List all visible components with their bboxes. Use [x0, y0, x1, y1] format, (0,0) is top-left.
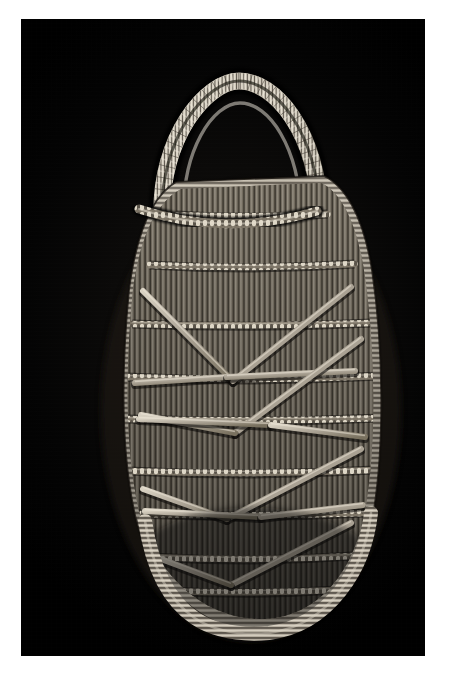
basket-body — [21, 19, 425, 656]
woven-basket-illustration — [21, 19, 425, 656]
photograph-plate: Oval woven basket with an arched wrapped… — [21, 19, 425, 656]
photo-mat-frame: Oval woven basket with an arched wrapped… — [0, 0, 452, 681]
